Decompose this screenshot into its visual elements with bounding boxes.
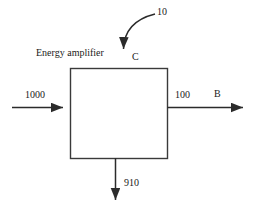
energy-amplifier-diagram: Energy amplifier 1000 10 C 100 B 910 [0,0,254,213]
process-block-label: Energy amplifier [36,48,104,58]
input-top-value-label: 10 [157,7,167,17]
input-top-curve [124,14,156,49]
stream-b-label: B [214,89,221,99]
input-main-value-label: 1000 [25,90,45,100]
output-right-value-label: 100 [175,90,190,100]
stream-c-label: C [132,52,139,62]
output-bottom-value-label: 910 [124,178,139,188]
process-block [71,69,168,159]
